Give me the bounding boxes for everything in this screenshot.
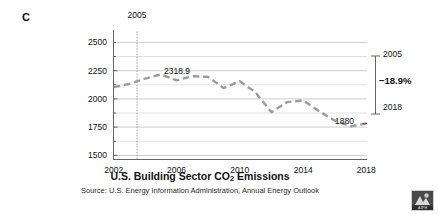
emissions-series-line bbox=[114, 74, 366, 126]
y-tick-label-2000: 2000 bbox=[88, 94, 107, 104]
y-tick-label-1500: 1500 bbox=[88, 150, 107, 160]
publisher-logo-icon: AJPH bbox=[411, 190, 434, 211]
chart-title-part1: U.S. Building Sector CO bbox=[110, 170, 230, 182]
y-tick-label-2500: 2500 bbox=[88, 37, 107, 47]
y-tick-label-2250: 2250 bbox=[88, 66, 107, 76]
delta-percent-label: −18.9% bbox=[379, 75, 412, 86]
chart-title-part2: Emissions bbox=[234, 170, 289, 182]
delta-bottom-label: 2018 bbox=[383, 102, 402, 112]
peak-value-label: 2318.9 bbox=[164, 66, 190, 76]
svg-text:AJPH: AJPH bbox=[418, 206, 428, 210]
plot-svg bbox=[113, 30, 367, 160]
end-value-label: 1880 bbox=[335, 116, 354, 126]
figure-panel-c: C Emissions MMmt CO2 bbox=[0, 0, 438, 215]
panel-letter: C bbox=[22, 11, 30, 23]
y-axis-ticks bbox=[114, 42, 118, 155]
chart-source-note: Source: U.S. Energy Information Administ… bbox=[0, 186, 400, 195]
marker-label-2005: 2005 bbox=[128, 10, 147, 20]
logo-glyph: AJPH bbox=[412, 191, 433, 210]
plot-area: 1500 1750 2000 2250 2500 2002 2006 2010 … bbox=[113, 30, 367, 160]
y-tick-label-1750: 1750 bbox=[88, 122, 107, 132]
chart-title: U.S. Building Sector CO2 Emissions bbox=[0, 170, 400, 183]
delta-annotation-group: 2005 −18.9% 2018 bbox=[369, 54, 437, 116]
gridlines-major bbox=[113, 42, 367, 155]
delta-top-label: 2005 bbox=[383, 49, 402, 59]
